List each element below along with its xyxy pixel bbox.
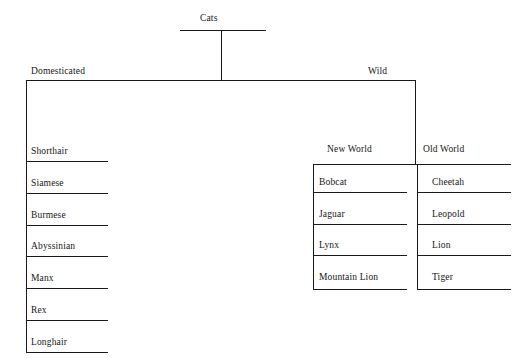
- leaf-label-cheetah: Cheetah: [432, 177, 464, 188]
- leaf-label-bobcat: Bobcat: [319, 177, 347, 188]
- leaf-underline-lynx: [313, 255, 407, 256]
- spine-wild: [415, 80, 416, 165]
- leaf-underline-shorthair: [26, 161, 108, 162]
- leaf-label-mountain-lion: Mountain Lion: [319, 272, 378, 283]
- leaf-label-shorthair: Shorthair: [31, 146, 68, 157]
- sibling-bar-level1: [26, 80, 416, 81]
- leaf-underline-manx: [26, 288, 108, 289]
- leaf-underline-lion: [417, 255, 511, 256]
- leaf-underline-bobcat: [313, 192, 407, 193]
- leaf-label-leopold: Leopold: [432, 209, 465, 220]
- node-underline-new-world: [313, 164, 417, 165]
- leaf-underline-rex: [26, 320, 108, 321]
- node-label-new-world: New World: [327, 144, 372, 155]
- spine-domesticated: [26, 80, 27, 352]
- leaf-label-manx: Manx: [31, 273, 54, 284]
- leaf-underline-mountain-lion: [313, 289, 407, 290]
- leaf-underline-leopold: [417, 224, 511, 225]
- node-underline-old-world: [417, 164, 511, 165]
- leaf-label-lynx: Lynx: [319, 240, 339, 251]
- leaf-underline-siamese: [26, 193, 108, 194]
- leaf-underline-burmese: [26, 225, 108, 226]
- leaf-label-jaguar: Jaguar: [319, 209, 345, 220]
- leaf-label-rex: Rex: [31, 305, 47, 316]
- leaf-underline-longhair: [26, 352, 108, 353]
- node-label-cats: Cats: [200, 13, 218, 24]
- leaf-label-siamese: Siamese: [31, 178, 64, 189]
- leaf-label-longhair: Longhair: [31, 337, 67, 348]
- node-label-domesticated: Domesticated: [31, 66, 85, 77]
- spine-old-world: [417, 164, 418, 290]
- leaf-label-tiger: Tiger: [432, 272, 453, 283]
- node-label-old-world: Old World: [423, 144, 464, 155]
- spine-new-world: [313, 164, 314, 290]
- leaf-label-abyssinian: Abyssinian: [31, 241, 75, 252]
- leaf-underline-cheetah: [417, 192, 511, 193]
- node-underline-cats: [180, 30, 266, 31]
- leaf-underline-jaguar: [313, 224, 407, 225]
- node-label-wild: Wild: [368, 66, 387, 77]
- leaf-underline-tiger: [417, 289, 511, 290]
- leaf-underline-abyssinian: [26, 256, 108, 257]
- leaf-label-lion: Lion: [432, 240, 451, 251]
- connector-cats-to-level1: [221, 30, 222, 80]
- leaf-label-burmese: Burmese: [31, 210, 66, 221]
- diagram-canvas: Cats Domesticated Wild New World Old Wor…: [0, 0, 532, 359]
